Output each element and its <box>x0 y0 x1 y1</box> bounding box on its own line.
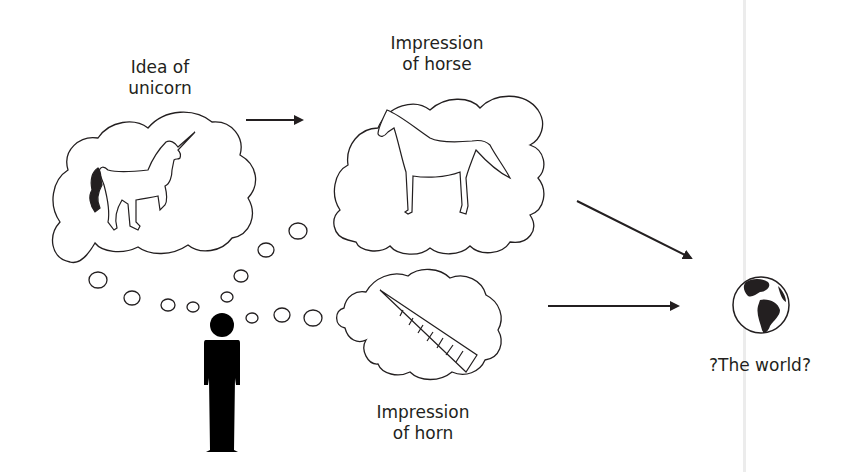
unicorn-idea-label: Idea of unicorn <box>95 57 225 99</box>
unicorn-label-line2: unicorn <box>95 78 225 99</box>
horn-label-line1: Impression <box>358 402 488 423</box>
person-icon <box>204 313 240 452</box>
horse-label-line1: Impression <box>372 33 502 54</box>
horse-impression-label: Impression of horse <box>372 33 502 75</box>
world-label: ?The world? <box>690 355 830 376</box>
globe-icon <box>733 277 789 333</box>
unicorn-label-line1: Idea of <box>95 57 225 78</box>
horse-label-line2: of horse <box>372 54 502 75</box>
horn-label-line2: of horn <box>358 423 488 444</box>
world-label-text: ?The world? <box>690 355 830 376</box>
arrow-horse-to-world <box>577 201 691 258</box>
horn-impression-label: Impression of horn <box>358 402 488 444</box>
